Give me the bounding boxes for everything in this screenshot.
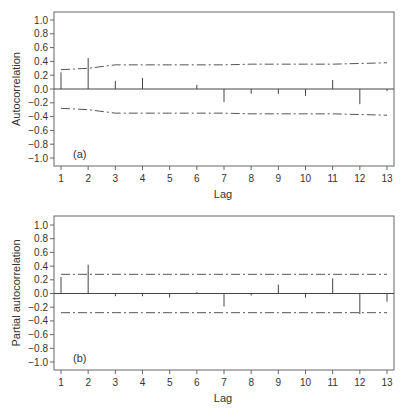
pacf-y-tick-label: −0.4 <box>28 315 48 326</box>
pacf-x-axis-label: Lag <box>214 392 232 404</box>
pacf-y-tick-label: −0.6 <box>28 329 48 340</box>
acf-x-tick-label: 12 <box>354 173 366 184</box>
pacf-panel: 1.00.80.60.40.20.0−0.2−0.4−0.6−0.8−1.0 1… <box>10 216 394 404</box>
acf-y-tick-label: −0.6 <box>28 125 48 136</box>
pacf-x-tick-label: 6 <box>194 377 200 388</box>
pacf-y-tick-label: −0.8 <box>28 343 48 354</box>
acf-y-tick-label: −1.0 <box>28 153 48 164</box>
acf-x-axis: 12345678910111213 <box>58 166 393 184</box>
acf-x-tick-label: 7 <box>221 173 227 184</box>
acf-y-tick-label: −0.8 <box>28 139 48 150</box>
acf-y-axis: 1.00.80.60.40.20.0−0.2−0.4−0.6−0.8−1.0 <box>28 15 54 164</box>
pacf-stems <box>61 265 387 314</box>
pacf-y-axis: 1.00.80.60.40.20.0−0.2−0.4−0.6−0.8−1.0 <box>28 220 54 368</box>
pacf-x-tick-label: 4 <box>140 377 146 388</box>
acf-y-axis-label: Autocorrelation <box>10 52 22 126</box>
pacf-x-tick-label: 11 <box>327 377 338 388</box>
pacf-x-axis: 12345678910111213 <box>58 370 393 388</box>
acf-x-tick-label: 5 <box>167 173 173 184</box>
pacf-y-tick-label: 0.2 <box>34 274 48 285</box>
pacf-x-tick-label: 13 <box>381 377 393 388</box>
acf-confidence-upper-line <box>61 63 387 70</box>
pacf-y-tick-label: −1.0 <box>28 357 48 368</box>
acf-panel-label: (a) <box>73 148 86 160</box>
pacf-x-tick-label: 9 <box>276 377 282 388</box>
acf-x-tick-label: 4 <box>140 173 146 184</box>
pacf-y-tick-label: −0.2 <box>28 302 48 313</box>
pacf-x-tick-label: 7 <box>221 377 227 388</box>
pacf-y-tick-label: 1.0 <box>34 220 48 231</box>
acf-x-tick-label: 1 <box>58 173 64 184</box>
pacf-x-tick-label: 12 <box>354 377 366 388</box>
acf-x-axis-label: Lag <box>214 188 232 200</box>
acf-y-tick-label: 0.4 <box>34 56 48 67</box>
pacf-x-tick-label: 5 <box>167 377 173 388</box>
acf-x-tick-label: 2 <box>85 173 91 184</box>
pacf-y-tick-label: 0.4 <box>34 261 48 272</box>
acf-confidence-lower-line <box>61 108 387 115</box>
acf-y-tick-label: 0.6 <box>34 42 48 53</box>
acf-y-tick-label: 0.8 <box>34 28 48 39</box>
acf-x-tick-label: 11 <box>327 173 338 184</box>
pacf-y-tick-label: 0.8 <box>34 233 48 244</box>
acf-x-tick-label: 3 <box>113 173 119 184</box>
acf-panel: 1.00.80.60.40.20.0−0.2−0.4−0.6−0.8−1.0 1… <box>10 12 394 200</box>
pacf-y-axis-label: Partial autocorrelation <box>10 239 22 346</box>
pacf-x-tick-label: 2 <box>85 377 91 388</box>
acf-pacf-figure: 1.00.80.60.40.20.0−0.2−0.4−0.6−0.8−1.0 1… <box>0 0 407 416</box>
pacf-x-tick-label: 10 <box>300 377 312 388</box>
acf-y-tick-label: −0.2 <box>28 97 48 108</box>
pacf-x-tick-label: 8 <box>248 377 254 388</box>
pacf-x-tick-label: 3 <box>113 377 119 388</box>
pacf-y-tick-label: 0.0 <box>34 288 48 299</box>
acf-y-tick-label: 0.2 <box>34 70 48 81</box>
acf-x-tick-label: 13 <box>381 173 393 184</box>
acf-x-tick-label: 9 <box>276 173 282 184</box>
pacf-panel-label: (b) <box>73 352 86 364</box>
acf-x-tick-label: 10 <box>300 173 312 184</box>
acf-x-tick-label: 6 <box>194 173 200 184</box>
acf-y-tick-label: 0.0 <box>34 84 48 95</box>
acf-y-tick-label: −0.4 <box>28 111 48 122</box>
pacf-y-tick-label: 0.6 <box>34 247 48 258</box>
pacf-x-tick-label: 1 <box>58 377 64 388</box>
acf-stems <box>61 58 387 104</box>
acf-y-tick-label: 1.0 <box>34 15 48 26</box>
acf-x-tick-label: 8 <box>248 173 254 184</box>
